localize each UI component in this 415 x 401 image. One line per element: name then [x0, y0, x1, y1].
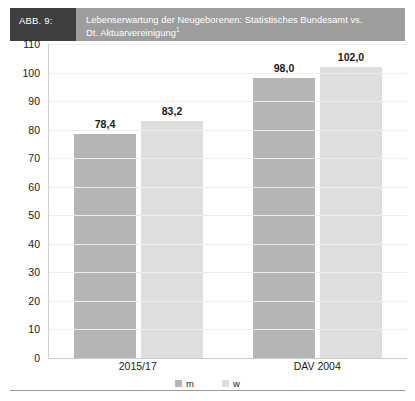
gridline — [49, 215, 407, 216]
legend-label: w — [233, 378, 240, 389]
figure-title-line-2: Dt. Aktuarvereinigung — [86, 28, 176, 38]
bar[interactable]: 83,2 — [141, 121, 203, 358]
y-axis-tick-label: 80 — [28, 124, 40, 136]
y-axis-tick-label: 30 — [28, 266, 40, 278]
y-axis-tick-label: 60 — [28, 181, 40, 193]
bar-value-label: 83,2 — [141, 105, 203, 117]
gridline — [49, 329, 407, 330]
figure-title-footnote-marker: 1 — [176, 26, 180, 33]
y-axis-tick-label: 10 — [28, 323, 40, 335]
y-axis: 1101009080706050403020100 — [0, 44, 46, 358]
x-axis-category-labels: 2015/17DAV 2004 — [48, 360, 407, 376]
figure-number-badge: ABB. 9: — [10, 8, 76, 41]
figure-title: Lebenserwartung der Neugeborenen: Statis… — [76, 8, 405, 41]
legend-color-swatch — [222, 380, 229, 387]
bar-group: 98,0102,0 — [228, 44, 407, 358]
legend-item[interactable]: w — [222, 378, 240, 389]
gridline — [49, 187, 407, 188]
bar-group: 78,483,2 — [49, 44, 228, 358]
gridline — [49, 301, 407, 302]
y-axis-tick-label: 20 — [28, 295, 40, 307]
x-axis-category-label: 2015/17 — [119, 360, 157, 372]
y-axis-tick-label: 40 — [28, 238, 40, 250]
gridline — [49, 101, 407, 102]
y-axis-tick-label: 90 — [28, 95, 40, 107]
y-axis-tick-label: 70 — [28, 152, 40, 164]
x-axis-category-label: DAV 2004 — [294, 360, 341, 372]
figure-header: ABB. 9: Lebenserwartung der Neugeborenen… — [10, 8, 405, 41]
gridline — [49, 244, 407, 245]
footer-divider — [10, 390, 405, 391]
gridline — [49, 130, 407, 131]
legend-label: m — [186, 378, 194, 389]
bar[interactable]: 102,0 — [320, 67, 382, 358]
gridline — [49, 44, 407, 45]
chart-container: 1101009080706050403020100 78,483,298,010… — [0, 44, 415, 374]
gridline — [49, 358, 407, 359]
legend-item[interactable]: m — [175, 378, 194, 389]
y-axis-tick-label: 100 — [22, 67, 40, 79]
legend-color-swatch — [175, 380, 182, 387]
gridline — [49, 158, 407, 159]
plot-area: 78,483,298,0102,0 — [48, 44, 407, 359]
chart-legend: mw — [0, 378, 415, 389]
y-axis-tick-label: 50 — [28, 209, 40, 221]
gridline — [49, 272, 407, 273]
gridline — [49, 73, 407, 74]
bars-layer: 78,483,298,0102,0 — [49, 44, 407, 358]
bar-value-label: 102,0 — [320, 51, 382, 63]
bar[interactable]: 78,4 — [74, 134, 136, 358]
bar[interactable]: 98,0 — [253, 78, 315, 358]
y-axis-tick-label: 0 — [34, 352, 40, 364]
bar-value-label: 78,4 — [74, 118, 136, 130]
y-axis-tick-label: 110 — [23, 38, 40, 50]
figure-title-line-1: Lebenserwartung der Neugeborenen: Statis… — [86, 15, 362, 25]
